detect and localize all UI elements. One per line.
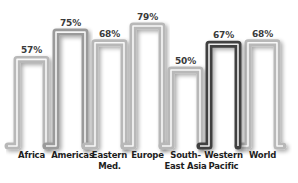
- bar-tubes: [8, 26, 283, 146]
- bar-tube: [85, 43, 124, 146]
- value-label: 75%: [51, 18, 91, 28]
- bar-tube: [162, 70, 200, 146]
- value-label: 67%: [204, 30, 244, 40]
- value-label: 79%: [128, 12, 168, 22]
- category-label: World: [237, 150, 289, 161]
- bar-tube: [46, 32, 85, 146]
- bar-tube: [238, 43, 283, 146]
- bar-tube: [124, 26, 162, 146]
- bar-tube: [8, 59, 46, 146]
- value-label: 57%: [12, 45, 52, 55]
- value-label: 50%: [166, 56, 206, 66]
- value-label: 68%: [243, 29, 283, 39]
- value-label: 68%: [90, 29, 130, 39]
- bar-tube: [200, 44, 238, 146]
